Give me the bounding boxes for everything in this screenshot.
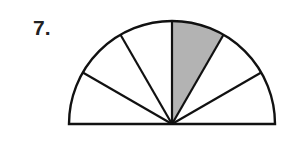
sector-dividers (83, 21, 261, 124)
semicircle-diagram (0, 0, 295, 144)
